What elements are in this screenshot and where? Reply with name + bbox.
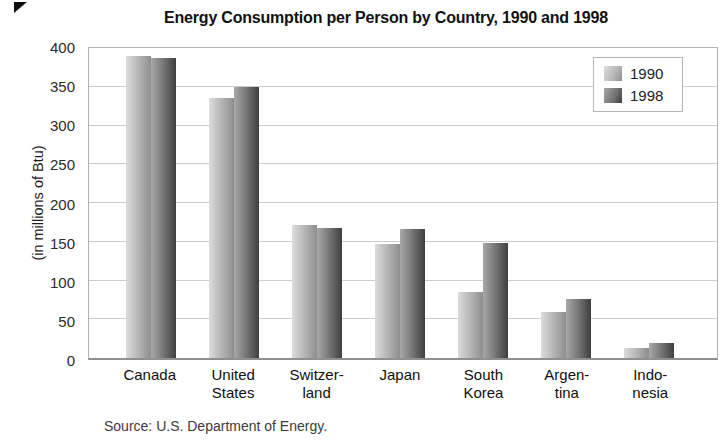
x-label-line: Indo- [609, 366, 692, 384]
x-label-line: Japan [358, 366, 441, 384]
bar-group-south-korea [442, 48, 525, 358]
x-axis-labels: CanadaUnitedStatesSwitzer-landJapanSouth… [88, 366, 718, 402]
bar-group-japan [358, 48, 441, 358]
bar-1990-japan [375, 244, 400, 358]
corner-artifact [14, 2, 27, 13]
x-label-switzerland: Switzer-land [275, 366, 358, 402]
chart-figure: Energy Consumption per Person by Country… [0, 0, 723, 445]
x-label-line: tina [525, 384, 608, 402]
bar-group-switzerland [275, 48, 358, 358]
legend-swatch-1998 [604, 88, 622, 103]
bar-1998-indonesia [649, 343, 674, 358]
x-label-line: Korea [442, 384, 525, 402]
x-label-line: South [442, 366, 525, 384]
x-label-united-states: UnitedStates [191, 366, 274, 402]
bar-1990-united-states [209, 98, 234, 358]
x-label-line: States [191, 384, 274, 402]
x-label-canada: Canada [108, 366, 191, 402]
y-tick-300: 300 [50, 117, 82, 134]
x-label-line: land [275, 384, 358, 402]
y-axis-ticks: 400350300250200150100500 [0, 47, 82, 360]
y-tick-100: 100 [50, 273, 82, 290]
x-label-indonesia: Indo-nesia [609, 366, 692, 402]
bar-group-united-states [192, 48, 275, 358]
x-label-line: Switzer- [275, 366, 358, 384]
bar-1998-switzerland [317, 228, 342, 358]
x-label-japan: Japan [358, 366, 441, 402]
x-label-line: Canada [108, 366, 191, 384]
y-tick-200: 200 [50, 195, 82, 212]
bar-1998-japan [400, 229, 425, 358]
x-label-line: nesia [609, 384, 692, 402]
x-label-line: Argen- [525, 366, 608, 384]
legend-item-1998: 1998 [604, 87, 674, 104]
legend-swatch-1990 [604, 66, 622, 81]
x-label-south-korea: SouthKorea [442, 366, 525, 402]
y-tick-350: 350 [50, 78, 82, 95]
bar-1990-canada [126, 56, 151, 358]
legend-item-1990: 1990 [604, 65, 674, 82]
x-label-argentina: Argen-tina [525, 366, 608, 402]
bar-1998-canada [151, 58, 176, 358]
y-tick-50: 50 [58, 312, 82, 329]
chart-title: Energy Consumption per Person by Country… [70, 9, 702, 27]
legend-label-1998: 1998 [630, 87, 663, 104]
bar-1998-united-states [234, 87, 259, 358]
bar-1990-switzerland [292, 225, 317, 358]
bar-1990-argentina [541, 312, 566, 359]
y-tick-250: 250 [50, 156, 82, 173]
bar-1990-indonesia [624, 348, 649, 358]
bar-1990-south-korea [458, 292, 483, 358]
y-tick-400: 400 [50, 39, 82, 56]
bar-1998-south-korea [483, 243, 508, 358]
legend-label-1990: 1990 [630, 65, 663, 82]
source-note: Source: U.S. Department of Energy. [104, 418, 327, 434]
legend: 1990 1998 [593, 57, 683, 112]
bar-group-canada [109, 48, 192, 358]
y-tick-0: 0 [67, 352, 82, 369]
x-label-line: United [191, 366, 274, 384]
bar-1998-argentina [566, 299, 591, 358]
y-tick-150: 150 [50, 234, 82, 251]
